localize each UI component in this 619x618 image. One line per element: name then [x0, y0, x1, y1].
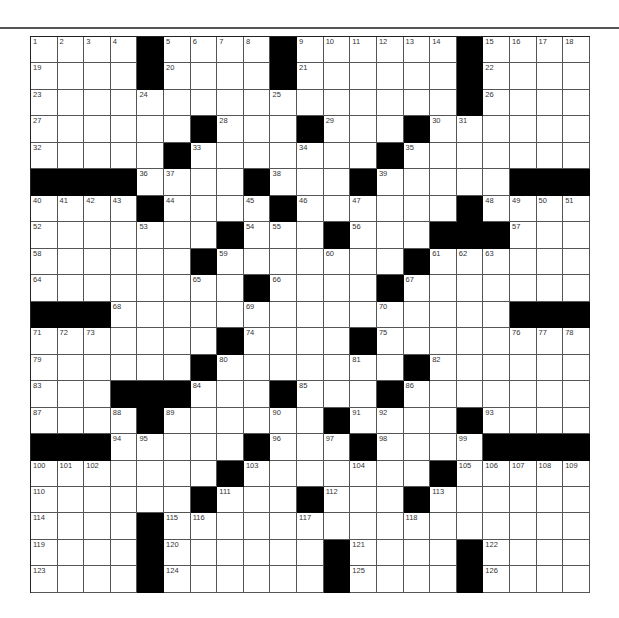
- grid-cell[interactable]: [270, 355, 297, 381]
- grid-cell[interactable]: [137, 116, 164, 142]
- grid-cell[interactable]: 10: [324, 37, 351, 63]
- grid-cell[interactable]: [111, 90, 138, 116]
- grid-cell[interactable]: 123: [31, 566, 58, 592]
- grid-cell[interactable]: 27: [31, 116, 58, 142]
- grid-cell[interactable]: [563, 408, 590, 434]
- grid-cell[interactable]: 7: [217, 37, 244, 63]
- grid-cell[interactable]: [377, 222, 404, 248]
- grid-cell[interactable]: [404, 169, 431, 195]
- grid-cell[interactable]: 126: [483, 566, 510, 592]
- grid-cell[interactable]: 8: [244, 37, 271, 63]
- grid-cell[interactable]: 1: [31, 37, 58, 63]
- grid-cell[interactable]: [350, 513, 377, 539]
- grid-cell[interactable]: [510, 143, 537, 169]
- grid-cell[interactable]: 37: [164, 169, 191, 195]
- grid-cell[interactable]: [164, 461, 191, 487]
- grid-cell[interactable]: [244, 63, 271, 89]
- grid-cell[interactable]: [404, 90, 431, 116]
- grid-cell[interactable]: 85: [297, 381, 324, 407]
- grid-cell[interactable]: [537, 275, 564, 301]
- grid-cell[interactable]: [270, 540, 297, 566]
- grid-cell[interactable]: [563, 487, 590, 513]
- grid-cell[interactable]: 12: [377, 37, 404, 63]
- grid-cell[interactable]: [191, 63, 218, 89]
- grid-cell[interactable]: [191, 222, 218, 248]
- grid-cell[interactable]: [404, 540, 431, 566]
- grid-cell[interactable]: [111, 355, 138, 381]
- grid-cell[interactable]: [297, 169, 324, 195]
- grid-cell[interactable]: [457, 275, 484, 301]
- grid-cell[interactable]: [430, 196, 457, 222]
- grid-cell[interactable]: 53: [137, 222, 164, 248]
- grid-cell[interactable]: [111, 222, 138, 248]
- grid-cell[interactable]: [270, 566, 297, 592]
- grid-cell[interactable]: [84, 222, 111, 248]
- grid-cell[interactable]: 17: [537, 37, 564, 63]
- grid-cell[interactable]: 23: [31, 90, 58, 116]
- grid-cell[interactable]: [111, 63, 138, 89]
- grid-cell[interactable]: [537, 355, 564, 381]
- grid-cell[interactable]: [84, 355, 111, 381]
- grid-cell[interactable]: 22: [483, 63, 510, 89]
- grid-cell[interactable]: 35: [404, 143, 431, 169]
- grid-cell[interactable]: [297, 328, 324, 354]
- grid-cell[interactable]: [244, 540, 271, 566]
- grid-cell[interactable]: 111: [217, 487, 244, 513]
- grid-cell[interactable]: [164, 222, 191, 248]
- grid-cell[interactable]: [510, 249, 537, 275]
- grid-cell[interactable]: [191, 302, 218, 328]
- grid-cell[interactable]: [244, 143, 271, 169]
- grid-cell[interactable]: [563, 249, 590, 275]
- grid-cell[interactable]: [483, 143, 510, 169]
- grid-cell[interactable]: 92: [377, 408, 404, 434]
- grid-cell[interactable]: [537, 540, 564, 566]
- grid-cell[interactable]: [537, 222, 564, 248]
- grid-cell[interactable]: [58, 222, 85, 248]
- grid-cell[interactable]: [58, 116, 85, 142]
- grid-cell[interactable]: 9: [297, 37, 324, 63]
- grid-cell[interactable]: [350, 487, 377, 513]
- grid-cell[interactable]: 42: [84, 196, 111, 222]
- grid-cell[interactable]: [324, 169, 351, 195]
- grid-cell[interactable]: [217, 302, 244, 328]
- grid-cell[interactable]: [111, 461, 138, 487]
- grid-cell[interactable]: [563, 513, 590, 539]
- grid-cell[interactable]: 46: [297, 196, 324, 222]
- grid-cell[interactable]: [217, 169, 244, 195]
- grid-cell[interactable]: [84, 566, 111, 592]
- grid-cell[interactable]: 79: [31, 355, 58, 381]
- grid-cell[interactable]: [324, 461, 351, 487]
- grid-cell[interactable]: [58, 381, 85, 407]
- grid-cell[interactable]: [164, 275, 191, 301]
- grid-cell[interactable]: 20: [164, 63, 191, 89]
- grid-cell[interactable]: 59: [217, 249, 244, 275]
- grid-cell[interactable]: 36: [137, 169, 164, 195]
- grid-cell[interactable]: [510, 275, 537, 301]
- grid-cell[interactable]: 112: [324, 487, 351, 513]
- grid-cell[interactable]: [457, 302, 484, 328]
- grid-cell[interactable]: 50: [537, 196, 564, 222]
- grid-cell[interactable]: [297, 408, 324, 434]
- grid-cell[interactable]: [510, 63, 537, 89]
- grid-cell[interactable]: [297, 90, 324, 116]
- grid-cell[interactable]: 118: [404, 513, 431, 539]
- grid-cell[interactable]: [563, 222, 590, 248]
- grid-cell[interactable]: [324, 63, 351, 89]
- grid-cell[interactable]: 69: [244, 302, 271, 328]
- grid-cell[interactable]: [137, 275, 164, 301]
- grid-cell[interactable]: [510, 513, 537, 539]
- grid-cell[interactable]: 101: [58, 461, 85, 487]
- grid-cell[interactable]: [244, 513, 271, 539]
- grid-cell[interactable]: [563, 355, 590, 381]
- grid-cell[interactable]: 5: [164, 37, 191, 63]
- grid-cell[interactable]: [217, 434, 244, 460]
- grid-cell[interactable]: 44: [164, 196, 191, 222]
- grid-cell[interactable]: 31: [457, 116, 484, 142]
- grid-cell[interactable]: 15: [483, 37, 510, 63]
- grid-cell[interactable]: 68: [111, 302, 138, 328]
- grid-cell[interactable]: [537, 381, 564, 407]
- grid-cell[interactable]: 39: [377, 169, 404, 195]
- grid-cell[interactable]: 48: [483, 196, 510, 222]
- grid-cell[interactable]: 28: [217, 116, 244, 142]
- grid-cell[interactable]: [483, 355, 510, 381]
